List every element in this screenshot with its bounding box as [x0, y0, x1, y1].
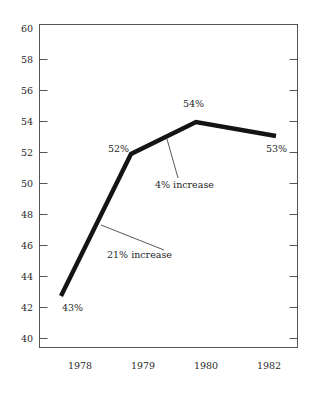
- y-tick-label: 46: [21, 240, 33, 251]
- x-tick-label: 1980: [194, 360, 218, 371]
- y-tick-label: 54: [21, 116, 33, 127]
- data-series-line: [61, 122, 276, 296]
- x-tick-label: 1979: [131, 360, 155, 371]
- y-tick-label: 48: [21, 209, 33, 220]
- y-tick-label: 42: [21, 302, 33, 313]
- y-tick-label: 52: [21, 147, 33, 158]
- y-tick-label: 58: [21, 54, 33, 65]
- x-tick-label: 1982: [257, 360, 281, 371]
- leader-line-4-percent: [167, 139, 178, 178]
- data-label-1982: 53%: [266, 143, 287, 154]
- y-tick-label: 60: [21, 23, 33, 34]
- annotation-labels: 21% increase 4% increase: [107, 179, 214, 260]
- line-chart: 60 58 56 54 52 50 48 46 44 42 40 1978 19…: [0, 0, 318, 396]
- y-axis-tick-labels: 60 58 56 54 52 50 48 46 44 42 40: [21, 23, 33, 344]
- data-label-1978: 43%: [62, 302, 83, 313]
- annotation-21-percent-increase: 21% increase: [107, 249, 172, 260]
- y-tick-label: 40: [21, 333, 33, 344]
- x-axis-tick-labels: 1978 1979 1980 1982: [68, 360, 281, 371]
- y-tick-label: 44: [21, 271, 33, 282]
- leader-line-21-percent: [101, 225, 164, 250]
- data-label-1980: 54%: [183, 98, 204, 109]
- x-tick-label: 1978: [68, 360, 92, 371]
- data-label-1979: 52%: [108, 143, 129, 154]
- chart-figure: 60 58 56 54 52 50 48 46 44 42 40 1978 19…: [0, 0, 318, 396]
- y-axis-ticks-left: [40, 60, 48, 339]
- y-axis-ticks-right: [290, 60, 298, 339]
- annotation-4-percent-increase: 4% increase: [155, 179, 214, 190]
- y-tick-label: 56: [21, 85, 33, 96]
- y-tick-label: 50: [21, 178, 33, 189]
